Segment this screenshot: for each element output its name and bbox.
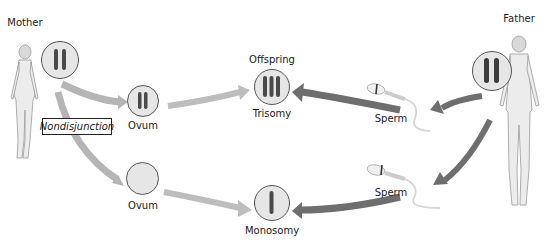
monosomy-label: Monosomy [245, 225, 299, 236]
arrow-sperm-bottom-to-offspring [300, 197, 400, 210]
chromosome-pair-icon [128, 86, 157, 115]
arrow-ovum-bottom-to-offspring [164, 192, 240, 208]
chromosome-pair-icon [473, 52, 510, 89]
single-chromosome-icon [255, 186, 288, 219]
chromosome-triplet-icon [255, 70, 288, 103]
chromosome-pair-icon [42, 42, 77, 77]
ovum-bottom-circle [126, 162, 159, 195]
arrow-father-to-sperm-top [442, 96, 482, 108]
offspring-heading: Offspring [249, 54, 295, 65]
ovum-top-circle [127, 85, 159, 117]
father-label: Father [503, 13, 534, 24]
ovum-top-label: Ovum [128, 120, 158, 131]
trisomy-label: Trisomy [253, 108, 292, 119]
sperm-top-label: Sperm [375, 113, 408, 124]
ovum-bottom-label: Ovum [128, 200, 158, 211]
father-chromosome-circle [472, 51, 512, 91]
arrow-mother-to-ovum-bottom [58, 92, 118, 180]
trisomy-circle [254, 69, 290, 105]
arrow-mother-to-ovum-top [62, 84, 120, 102]
sperm-bottom-label: Sperm [375, 187, 408, 198]
arrow-sperm-top-to-offspring [302, 92, 400, 110]
monosomy-circle [254, 185, 290, 221]
mother-figure-icon [11, 45, 38, 158]
arrow-father-to-sperm-bottom [445, 120, 490, 180]
mother-label: Mother [7, 17, 42, 28]
arrow-ovum-top-to-offspring [168, 92, 240, 106]
nondisjunction-label: Nondisjunction [42, 118, 112, 135]
mother-chromosome-circle [41, 41, 79, 79]
